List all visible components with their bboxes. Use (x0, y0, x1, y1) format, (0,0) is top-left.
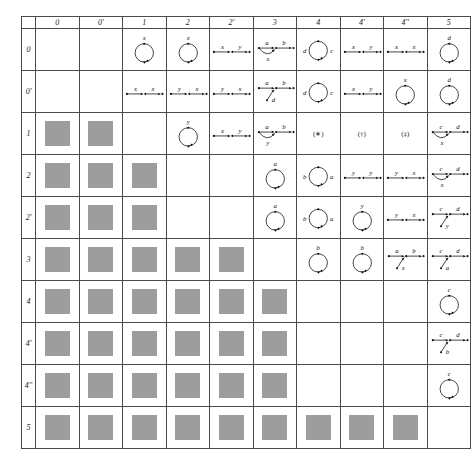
svg-text:x: x (150, 84, 154, 91)
cell-2p-2p (210, 197, 254, 239)
row-header-5: 5 (22, 407, 36, 449)
diagram-cell: a (254, 155, 297, 196)
row-header-3: 3 (22, 239, 36, 281)
svg-text:y: y (265, 139, 269, 146)
cell-2-0p (79, 155, 123, 197)
cell-2-4p: yy (340, 155, 384, 197)
cell-4pp-2p (210, 365, 254, 407)
svg-text:c: c (439, 122, 442, 129)
cell-2p-0 (36, 197, 80, 239)
diagram-cell: abx (254, 29, 297, 70)
svg-text:x: x (401, 263, 405, 270)
blocked-square (219, 373, 244, 398)
loop-diagram: a (254, 157, 297, 195)
blocked-cell (80, 239, 123, 280)
table-row: 3bbabxcda (22, 239, 471, 281)
cell-4pp-2 (166, 365, 210, 407)
blocked-square (45, 373, 70, 398)
svg-text:d: d (447, 34, 451, 41)
blocked-square (175, 247, 200, 272)
diagram-cell: y (167, 113, 210, 154)
diagram-cell: y (341, 197, 384, 238)
cell-1-1 (123, 113, 167, 155)
cell-2-4: ba (297, 155, 341, 197)
svg-text:d: d (456, 330, 460, 337)
loop-diagram: a (254, 199, 297, 237)
table-row: 2abayyyxcdx (22, 155, 471, 197)
svg-text:a: a (265, 122, 269, 129)
loop-diagram: d (428, 73, 471, 111)
blocked-cell (167, 323, 210, 364)
blocked-square (219, 415, 244, 440)
column-header-4: 4 (297, 17, 341, 29)
blocked-square (88, 205, 113, 230)
diagram-cell: a (254, 197, 297, 238)
blocked-square (132, 163, 157, 188)
svg-text:x: x (185, 34, 189, 41)
table-header-row: 00'122'344'4''5 (22, 17, 471, 29)
diagram-cell: yy (341, 155, 384, 196)
chain-arc-diagram: aby (254, 115, 297, 153)
chain-diagram: yy (341, 157, 384, 195)
svg-text:b: b (282, 122, 286, 129)
svg-text:x: x (133, 84, 137, 91)
cell-1-5: cdx (427, 113, 471, 155)
column-header-4pp: 4'' (384, 17, 428, 29)
cell-4pp-0 (36, 365, 80, 407)
blocked-cell (36, 113, 79, 154)
blocked-square (132, 289, 157, 314)
cell-5-3 (253, 407, 297, 449)
loop-diagram: b (341, 241, 384, 279)
loop-diagram: y (341, 199, 384, 237)
footnote-marker: (∗) (313, 130, 324, 138)
cell-2p-4: ba (297, 197, 341, 239)
blocked-cell (36, 365, 79, 406)
diagram-cell: xy (341, 29, 384, 70)
blocked-cell (123, 155, 166, 196)
blocked-cell (254, 407, 297, 448)
empty-cell (384, 365, 427, 406)
cell-0p-1: xx (123, 71, 167, 113)
svg-text:x: x (265, 55, 269, 62)
empty-cell (123, 113, 166, 154)
column-header-2p: 2' (210, 17, 254, 29)
blocked-cell (123, 281, 166, 322)
cell-5-4pp (384, 407, 428, 449)
blocked-square (262, 331, 287, 356)
svg-text:b: b (303, 214, 307, 221)
cell-2-2p (210, 155, 254, 197)
cell-3-1 (123, 239, 167, 281)
row-header-4p: 4' (22, 323, 36, 365)
chain-diagram: yx (167, 73, 210, 111)
cell-4p-1 (123, 323, 167, 365)
column-header-2: 2 (166, 17, 210, 29)
blocked-square (45, 121, 70, 146)
cell-2p-4pp: yx (384, 197, 428, 239)
svg-text:x: x (411, 168, 415, 175)
blocked-cell (210, 407, 253, 448)
cell-2-1 (123, 155, 167, 197)
cell-0p-0 (36, 71, 80, 113)
blocked-cell (384, 407, 427, 448)
cell-0p-4p: xy (340, 71, 384, 113)
chain-diagram: xy (341, 31, 384, 69)
cell-5-2 (166, 407, 210, 449)
cell-4p-4p (340, 323, 384, 365)
blocked-cell (80, 365, 123, 406)
cell-3-0p (79, 239, 123, 281)
blocked-square (45, 289, 70, 314)
svg-text:y: y (394, 168, 398, 175)
column-header-5: 5 (427, 17, 471, 29)
diagram-cell: aby (254, 113, 297, 154)
diagram-cell: yx (384, 197, 427, 238)
blocked-square (306, 415, 331, 440)
cell-0p-0p (79, 71, 123, 113)
blocked-cell (36, 197, 79, 238)
loop-diagram: x (123, 31, 166, 69)
cell-2p-4p: y (340, 197, 384, 239)
svg-text:a: a (273, 202, 277, 209)
svg-text:x: x (194, 84, 198, 91)
svg-text:b: b (445, 347, 449, 354)
diagram-cell: b (297, 239, 340, 280)
diagram-cell: cdb (428, 323, 471, 364)
